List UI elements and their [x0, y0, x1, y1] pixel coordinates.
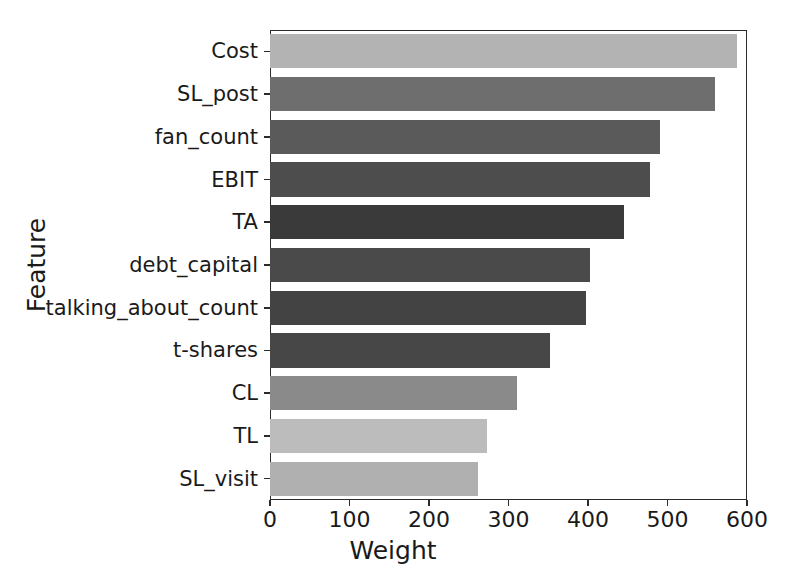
x-tick-label: 200: [408, 509, 450, 531]
y-tick-label: Cost: [211, 41, 258, 62]
y-tick-mark: [264, 392, 270, 394]
bar-row: [270, 333, 747, 367]
bar-row: [270, 77, 747, 111]
bar-chart-figure: Feature Weight CostSL_postfan_countEBITT…: [0, 0, 786, 582]
bar-fan-count: [270, 120, 660, 154]
x-tick-mark: [746, 500, 748, 506]
y-tick-label: SL_visit: [179, 468, 258, 489]
bar-talking-about-count: [270, 291, 586, 325]
bar-ta: [270, 205, 624, 239]
x-tick-label: 500: [647, 509, 689, 531]
y-tick-mark: [264, 350, 270, 352]
x-tick-label: 0: [263, 509, 277, 531]
x-tick-label: 100: [329, 509, 371, 531]
y-tick-mark: [264, 51, 270, 53]
x-tick-mark: [508, 500, 510, 506]
y-tick-mark: [264, 478, 270, 480]
bar-debt-capital: [270, 248, 590, 282]
y-tick-label: debt_capital: [129, 255, 258, 276]
bar-row: [270, 205, 747, 239]
y-tick-label: t-shares: [173, 340, 258, 361]
bar-row: [270, 248, 747, 282]
bar-sl-post: [270, 77, 715, 111]
y-tick-label: talking_about_count: [46, 297, 258, 318]
bar-t-shares: [270, 333, 550, 367]
y-axis-title-wrapper: Feature: [16, 0, 56, 582]
x-tick-mark: [667, 500, 669, 506]
y-tick-mark: [264, 93, 270, 95]
bar-row: [270, 162, 747, 196]
bar-tl: [270, 419, 487, 453]
bar-row: [270, 462, 747, 496]
y-tick-label: CL: [232, 383, 258, 404]
bar-row: [270, 34, 747, 68]
bar-cost: [270, 34, 737, 68]
y-tick-mark: [264, 221, 270, 223]
bar-sl-visit: [270, 462, 478, 496]
y-tick-mark: [264, 136, 270, 138]
x-tick-label: 600: [726, 509, 768, 531]
y-tick-label: EBIT: [211, 169, 258, 190]
x-tick-mark: [349, 500, 351, 506]
x-tick-mark: [587, 500, 589, 506]
bar-row: [270, 376, 747, 410]
y-tick-label: SL_post: [177, 84, 258, 105]
y-tick-mark: [264, 264, 270, 266]
y-tick-mark: [264, 435, 270, 437]
y-tick-label: TA: [232, 212, 258, 233]
bar-row: [270, 120, 747, 154]
bar-row: [270, 291, 747, 325]
y-tick-mark: [264, 179, 270, 181]
bar-ebit: [270, 162, 650, 196]
bar-cl: [270, 376, 517, 410]
x-tick-mark: [269, 500, 271, 506]
y-tick-label: fan_count: [155, 126, 258, 147]
bar-row: [270, 419, 747, 453]
y-tick-mark: [264, 307, 270, 309]
x-tick-label: 300: [488, 509, 530, 531]
y-tick-label: TL: [233, 425, 258, 446]
x-tick-mark: [428, 500, 430, 506]
x-tick-label: 400: [567, 509, 609, 531]
x-axis-title: Weight: [0, 536, 786, 565]
